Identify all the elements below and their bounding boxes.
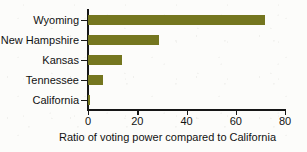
bar-new-hampshire	[88, 35, 159, 45]
x-tick-label-20: 20	[122, 115, 152, 127]
y-axis-label-new-hampshire: New Hampshire	[1, 34, 79, 46]
bar-chart: Wyoming New Hampshire Kansas Tennessee C…	[0, 0, 307, 152]
x-tick-label-40: 40	[172, 115, 202, 127]
bar-wyoming	[88, 15, 265, 25]
y-axis-label-california: California	[33, 94, 79, 106]
x-tick-label-60: 60	[221, 115, 251, 127]
bar-tennessee	[88, 75, 103, 85]
bar-kansas	[88, 55, 122, 65]
plot-area	[88, 10, 285, 108]
x-tick-label-0: 0	[73, 115, 103, 127]
y-axis-labels: Wyoming New Hampshire Kansas Tennessee C…	[0, 0, 79, 152]
bar-california	[88, 95, 90, 105]
y-axis-label-wyoming: Wyoming	[33, 14, 79, 26]
y-axis-label-tennessee: Tennessee	[26, 74, 79, 86]
x-axis-title-text: Ratio of voting power compared to Califo…	[59, 131, 276, 144]
y-axis-label-kansas: Kansas	[42, 54, 79, 66]
x-tick-label-80: 80	[270, 115, 300, 127]
x-axis-title: Ratio of voting power compared to Califo…	[0, 131, 307, 144]
